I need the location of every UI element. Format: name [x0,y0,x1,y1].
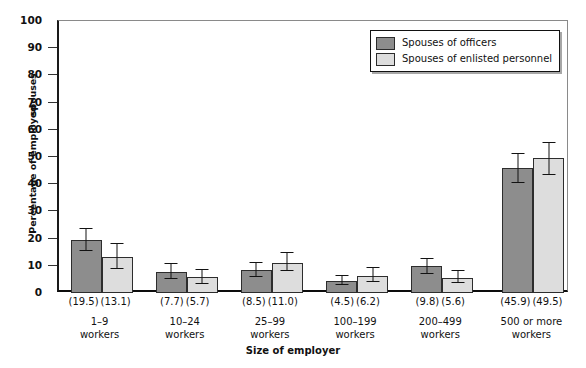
error-bar [78,228,94,251]
bar [533,158,564,293]
error-bar-cap-top [281,252,294,253]
error-bar [279,252,295,271]
error-bar-cap-top [542,142,555,143]
bar-chart: Percentage of employedspouses 1009080706… [0,0,586,368]
x-value-enlisted: (11.0) [268,296,298,308]
legend-swatch-enlisted [376,53,395,66]
error-bar-stem [457,270,458,283]
legend-label-enlisted: Spouses of enlisted personnel [402,54,552,64]
error-bar [109,243,125,269]
error-bar-stem [372,267,373,282]
x-value-enlisted: (6.2) [356,296,380,308]
error-bar-cap-top [451,270,464,271]
error-bar-cap-bottom [542,174,555,175]
y-tick-label: 40 [0,178,42,189]
error-bar-stem [202,269,203,284]
y-tick-label: 20 [0,232,42,243]
error-bar-cap-top [335,275,348,276]
x-value-enlisted: (5.7) [186,296,210,308]
x-value-officers: (7.7) [160,296,184,308]
x-group-label: 500 or moreworkers [471,315,586,341]
y-tick-label: 90 [0,42,42,53]
chart-legend: Spouses of officers Spouses of enlisted … [370,30,560,72]
error-bar-cap-top [366,267,379,268]
error-bar-cap-bottom [196,283,209,284]
error-bar-cap-bottom [366,281,379,282]
y-tick-mark [48,265,57,266]
legend-item-enlisted: Spouses of enlisted personnel [376,51,552,67]
error-bar-cap-bottom [165,278,178,279]
error-bar-stem [548,142,549,175]
error-bar [334,275,350,285]
x-value-officers: (4.5) [330,296,354,308]
error-bar-cap-bottom [335,284,348,285]
y-tick-label: 60 [0,124,42,135]
legend-item-officers: Spouses of officers [376,35,552,51]
y-tick-label: 100 [0,15,42,26]
error-bar-cap-bottom [281,270,294,271]
y-tick-mark [48,102,57,103]
error-bar-cap-top [250,262,263,263]
y-tick-label: 0 [0,287,42,298]
error-bar-stem [86,228,87,251]
error-bar [163,263,179,279]
y-tick-mark [48,129,57,130]
y-tick-mark [48,47,57,48]
bar [502,168,533,293]
y-tick-mark [48,210,57,211]
y-tick-label: 80 [0,69,42,80]
error-bar-stem [517,153,518,183]
error-bar-cap-top [511,153,524,154]
error-bar-stem [426,258,427,274]
error-bar-stem [171,263,172,279]
x-group-label-line2: workers [471,328,586,341]
error-bar-cap-bottom [420,273,433,274]
x-value-enlisted: (5.6) [441,296,465,308]
x-value-officers: (8.5) [242,296,266,308]
y-tick-label: 50 [0,151,42,162]
x-value-enlisted: (49.5) [532,296,562,308]
y-tick-label: 70 [0,96,42,107]
x-axis-title: Size of employer [0,345,586,356]
y-tick-mark [48,183,57,184]
error-bar [365,267,381,282]
y-tick-label: 30 [0,205,42,216]
error-bar-stem [256,262,257,277]
error-bar [510,153,526,183]
x-group-label-line1: 500 or more [471,315,586,328]
y-tick-mark [48,156,57,157]
legend-swatch-officers [376,37,395,50]
error-bar-cap-bottom [511,182,524,183]
y-tick-mark [48,74,57,75]
error-bar-cap-bottom [250,276,263,277]
error-bar-cap-top [80,228,93,229]
error-bar-cap-top [196,269,209,270]
error-bar [248,262,264,277]
error-bar-cap-bottom [111,268,124,269]
error-bar-stem [287,252,288,271]
error-bar-cap-bottom [451,282,464,283]
y-tick-mark [48,238,57,239]
legend-label-officers: Spouses of officers [402,38,496,48]
x-value-officers: (45.9) [500,296,530,308]
error-bar [419,258,435,274]
error-bar-stem [117,243,118,269]
x-value-officers: (9.8) [416,296,440,308]
x-value-officers: (19.5) [69,296,99,308]
y-tick-label: 10 [0,260,42,271]
error-bar [541,142,557,175]
error-bar [194,269,210,284]
error-bar-cap-top [111,243,124,244]
error-bar-cap-top [165,263,178,264]
error-bar-cap-bottom [80,250,93,251]
error-bar-cap-top [420,258,433,259]
x-group-values: (45.9)(49.5) [471,296,586,308]
error-bar [450,270,466,283]
